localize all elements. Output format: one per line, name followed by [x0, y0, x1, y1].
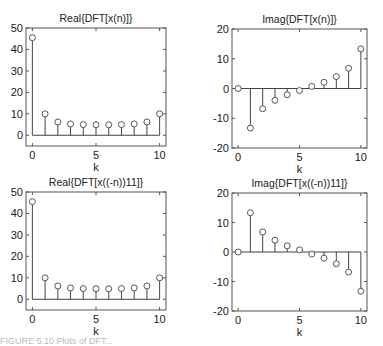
stem-marker: [144, 119, 150, 125]
chart-title: Imag{DFT[x(n)]}: [262, 13, 337, 25]
y-tick-label: 0: [17, 129, 23, 141]
x-tick-label: 5: [93, 313, 99, 325]
y-tick-label: 10: [217, 217, 229, 229]
stem-marker: [321, 255, 327, 261]
x-tick-label: 0: [235, 314, 241, 326]
stem-marker: [346, 65, 352, 71]
stem-marker: [284, 243, 290, 249]
stem-marker: [358, 288, 364, 294]
stem-marker: [333, 261, 339, 267]
stem-marker: [235, 86, 241, 92]
x-tick-label: 10: [355, 151, 367, 163]
y-tick-label: 10: [217, 53, 229, 65]
stem-marker: [42, 111, 48, 117]
stem-marker: [93, 122, 99, 128]
stem-marker: [29, 35, 35, 41]
stem-marker: [284, 92, 290, 98]
subplot-3: Real{DFT[x((-n))11]}010203040500510k: [11, 176, 166, 337]
stem-marker: [247, 125, 253, 131]
stem-marker: [333, 74, 339, 80]
x-axis-label: k: [297, 326, 303, 338]
stem-marker: [55, 283, 61, 289]
x-tick-label: 10: [355, 314, 367, 326]
y-tick-label: 20: [11, 86, 23, 98]
stem-marker: [131, 121, 137, 127]
x-tick-label: 5: [93, 149, 99, 161]
stem-marker: [297, 88, 303, 94]
stem-marker: [80, 286, 86, 292]
y-tick-label: 50: [11, 22, 23, 34]
stem-marker: [144, 283, 150, 289]
stem-marker: [29, 199, 35, 205]
stem-marker: [68, 121, 74, 127]
y-tick-label: 30: [11, 65, 23, 77]
x-axis-label: k: [297, 163, 303, 175]
chart-title: Imag{DFT[x((-n))11]}: [251, 177, 348, 189]
stem-marker: [93, 286, 99, 292]
stem-marker: [118, 122, 124, 128]
stem-marker: [131, 285, 137, 291]
x-tick-label: 10: [154, 313, 166, 325]
stem-marker: [321, 79, 327, 85]
y-tick-label: 0: [223, 246, 229, 258]
y-tick-label: 20: [217, 187, 229, 199]
figure: Real{DFT[x(n)]}010203040500510kImag{DFT[…: [0, 0, 383, 346]
x-tick-label: 5: [296, 151, 302, 163]
x-tick-label: 0: [29, 149, 35, 161]
stem-marker: [235, 249, 241, 255]
stem-marker: [157, 275, 163, 281]
y-tick-label: 10: [11, 108, 23, 120]
x-tick-label: 5: [296, 314, 302, 326]
y-tick-label: -20: [213, 142, 229, 154]
y-tick-label: 20: [217, 23, 229, 35]
stem-marker: [106, 122, 112, 128]
stem-marker: [272, 237, 278, 243]
stem-marker: [157, 111, 163, 117]
stem-marker: [346, 269, 352, 275]
y-tick-label: 40: [11, 43, 23, 55]
stem-marker: [358, 46, 364, 52]
subplot-4: Imag{DFT[x((-n))11]}-20-10010200510k: [213, 177, 367, 338]
x-axis-label: k: [93, 161, 99, 173]
subplot-1: Real{DFT[x(n)]}010203040500510k: [11, 12, 166, 173]
stem-marker: [247, 210, 253, 216]
y-tick-label: -10: [213, 112, 229, 124]
stem-marker: [106, 286, 112, 292]
y-tick-label: -20: [213, 305, 229, 317]
stem-marker: [118, 286, 124, 292]
chart-title: Real{DFT[x(n)]}: [60, 12, 133, 24]
y-tick-label: 20: [11, 250, 23, 262]
subplot-2: Imag{DFT[x(n)]}-20-10010200510k: [213, 13, 367, 175]
y-tick-label: 30: [11, 229, 23, 241]
x-tick-label: 0: [29, 313, 35, 325]
stem-marker: [42, 275, 48, 281]
y-tick-label: 0: [17, 293, 23, 305]
y-tick-label: 40: [11, 207, 23, 219]
stem-marker: [272, 97, 278, 103]
stem-marker: [309, 251, 315, 257]
stem-marker: [309, 83, 315, 89]
stem-marker: [55, 119, 61, 125]
figure-caption: FIGURE 5.10 Plots of DFT...: [0, 336, 113, 346]
stem-marker: [260, 106, 266, 112]
stem-marker: [260, 229, 266, 235]
y-tick-label: 50: [11, 186, 23, 198]
x-tick-label: 0: [235, 151, 241, 163]
x-tick-label: 10: [154, 149, 166, 161]
y-tick-label: 0: [223, 83, 229, 95]
y-tick-label: -10: [213, 276, 229, 288]
stem-marker: [297, 247, 303, 253]
stem-marker: [68, 285, 74, 291]
y-tick-label: 10: [11, 272, 23, 284]
stem-marker: [80, 122, 86, 128]
chart-title: Real{DFT[x((-n))11]}: [49, 176, 144, 188]
